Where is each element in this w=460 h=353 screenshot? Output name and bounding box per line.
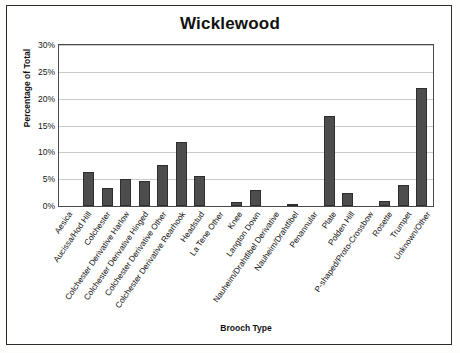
bar[interactable] bbox=[287, 204, 298, 206]
bar-slot bbox=[172, 45, 191, 206]
bar[interactable] bbox=[139, 181, 150, 206]
x-tick-slot: Colchester Derivative Rearhook bbox=[171, 208, 190, 318]
bar-series bbox=[59, 45, 433, 206]
x-tick-slot: Aesica bbox=[58, 208, 77, 318]
x-tick-slot: Rosette bbox=[378, 208, 397, 318]
x-tick-slot: Nauheim/Drahtfibel Derivative bbox=[265, 208, 284, 318]
y-tick-label: 15% bbox=[38, 121, 55, 131]
y-tick-label: 10% bbox=[38, 147, 55, 157]
bar[interactable] bbox=[194, 176, 205, 206]
bar[interactable] bbox=[416, 88, 427, 206]
chart-frame: Wicklewood Percentage of Total 0%5%10%15… bbox=[6, 5, 452, 345]
x-tick-slot: Colchester Derivative Other bbox=[152, 208, 171, 318]
x-axis-title: Brooch Type bbox=[58, 323, 434, 333]
bar[interactable] bbox=[342, 193, 353, 206]
y-tick-label: 0% bbox=[43, 201, 55, 211]
bar-slot bbox=[357, 45, 376, 206]
bar[interactable] bbox=[83, 172, 94, 206]
x-tick-slot: Headstud bbox=[190, 208, 209, 318]
y-axis-tick-labels: 0%5%10%15%20%25%30% bbox=[21, 44, 55, 207]
bar-slot bbox=[80, 45, 99, 206]
bar[interactable] bbox=[231, 202, 242, 206]
bar-slot bbox=[154, 45, 173, 206]
y-tick-label: 25% bbox=[38, 67, 55, 77]
bar[interactable] bbox=[157, 165, 168, 206]
x-axis-tick-labels: AesicaAucissa/Hod HillColchesterColchest… bbox=[58, 208, 434, 318]
plot-area bbox=[58, 44, 434, 207]
x-tick-slot: Unknown/Other bbox=[415, 208, 434, 318]
y-tick-label: 20% bbox=[38, 94, 55, 104]
x-tick-slot: Penannular bbox=[302, 208, 321, 318]
bar-slot bbox=[191, 45, 210, 206]
bar-slot bbox=[302, 45, 321, 206]
bar-slot bbox=[61, 45, 80, 206]
bar-slot bbox=[376, 45, 395, 206]
bar[interactable] bbox=[176, 142, 187, 206]
bar-slot bbox=[413, 45, 432, 206]
x-tick-slot: Nauheim/Drahtfibel bbox=[284, 208, 303, 318]
bar-slot bbox=[228, 45, 247, 206]
x-tick-slot: Polden Hill bbox=[340, 208, 359, 318]
chart-title: Wicklewood bbox=[7, 14, 453, 34]
bar-slot bbox=[394, 45, 413, 206]
bar-slot bbox=[339, 45, 358, 206]
bar[interactable] bbox=[398, 185, 409, 206]
bar-slot bbox=[246, 45, 265, 206]
chart-page: Wicklewood Percentage of Total 0%5%10%15… bbox=[0, 0, 460, 353]
bar-slot bbox=[320, 45, 339, 206]
bar-slot bbox=[265, 45, 284, 206]
bar[interactable] bbox=[379, 201, 390, 206]
bar-slot bbox=[209, 45, 228, 206]
bar-slot bbox=[135, 45, 154, 206]
bar[interactable] bbox=[324, 116, 335, 206]
bar-slot bbox=[117, 45, 136, 206]
bar[interactable] bbox=[120, 179, 131, 206]
bar-slot bbox=[98, 45, 117, 206]
y-tick-label: 30% bbox=[38, 40, 55, 50]
bar[interactable] bbox=[250, 190, 261, 206]
y-tick-label: 5% bbox=[43, 174, 55, 184]
x-tick-slot: P-shaped/Proto-Crossbow bbox=[359, 208, 378, 318]
x-tick-slot: Trumpet bbox=[396, 208, 415, 318]
bar[interactable] bbox=[102, 188, 113, 206]
bar-slot bbox=[283, 45, 302, 206]
